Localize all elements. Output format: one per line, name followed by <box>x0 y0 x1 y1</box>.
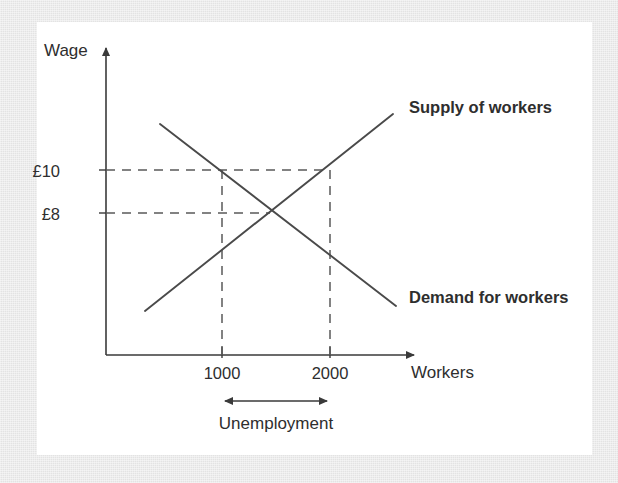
y-axis-label: Wage <box>44 41 88 60</box>
demand-curve <box>160 124 396 306</box>
supply-curve <box>145 114 393 311</box>
demand-curve-label: Demand for workers <box>409 288 569 306</box>
figure-page: Wage Workers £10 £8 1000 2000 Supply of … <box>0 0 618 483</box>
x-tick-label-2000: 2000 <box>312 364 349 382</box>
supply-curve-label: Supply of workers <box>409 98 552 116</box>
y-tick-label-8: £8 <box>42 205 60 223</box>
unemployment-label: Unemployment <box>219 414 334 433</box>
x-axis-label: Workers <box>411 363 474 382</box>
y-tick-label-10: £10 <box>32 162 60 180</box>
supply-demand-diagram: Wage Workers £10 £8 1000 2000 Supply of … <box>0 0 618 483</box>
x-tick-label-1000: 1000 <box>204 364 241 382</box>
